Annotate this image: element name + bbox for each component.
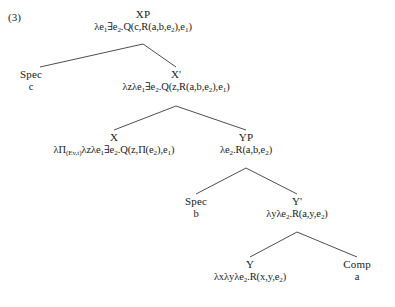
node-comp-label: Comp [343, 258, 371, 271]
node-x-bar: X' λzλe1∃e2.Q(z,R(a,b,e2),e1) [122, 68, 229, 94]
node-y-formula: λxλyλe2.R(x,y,e2) [214, 271, 286, 284]
node-x-bar-label: X' [122, 68, 229, 81]
node-spec-lower-label: Spec [185, 195, 207, 208]
node-x-formula: λΠ(Ev,t)λzλe1∃e2.Q(z,Π(e2),e1) [54, 144, 175, 157]
node-yp-formula: λe2.R(a,b,e2) [220, 144, 272, 157]
node-x-label: X [54, 131, 175, 144]
node-yp: YP λe2.R(a,b,e2) [220, 131, 272, 157]
node-spec-upper-terminal: c [20, 81, 42, 93]
syntax-tree-figure: (3) XP λe1∃e2.Q(c,R(a,b,e2),e1) Spec c X… [0, 0, 395, 307]
node-y-bar: Y' λyλe2.R(a,y,e2) [266, 195, 328, 221]
node-y: Y λxλyλe2.R(x,y,e2) [214, 258, 286, 284]
node-spec-upper: Spec c [20, 68, 42, 93]
node-yp-label: YP [220, 131, 272, 144]
node-y-bar-formula: λyλe2.R(a,y,e2) [266, 208, 328, 221]
branch-xbar-to-x [114, 106, 176, 130]
node-spec-upper-label: Spec [20, 68, 42, 81]
branch-xbar-to-yp [176, 106, 246, 130]
example-number: (3) [8, 11, 21, 23]
node-xp-label: XP [94, 8, 192, 21]
branch-xp-to-xbar [143, 44, 176, 67]
node-spec-lower: Spec b [185, 195, 207, 220]
branch-yp-to-spec [196, 168, 246, 194]
node-x: X λΠ(Ev,t)λzλe1∃e2.Q(z,Π(e2),e1) [54, 131, 175, 157]
node-x-bar-formula: λzλe1∃e2.Q(z,R(a,b,e2),e1) [122, 81, 229, 94]
node-y-bar-label: Y' [266, 195, 328, 208]
branch-xp-to-spec [40, 44, 143, 67]
node-xp: XP λe1∃e2.Q(c,R(a,b,e2),e1) [94, 8, 192, 34]
node-comp-terminal: a [343, 271, 371, 283]
node-xp-formula: λe1∃e2.Q(c,R(a,b,e2),e1) [94, 21, 192, 34]
branch-yp-to-ybar [246, 168, 297, 194]
node-y-label: Y [214, 258, 286, 271]
branch-ybar-to-comp [297, 232, 357, 257]
branch-ybar-to-y [250, 232, 297, 257]
node-comp: Comp a [343, 258, 371, 283]
node-spec-lower-terminal: b [185, 208, 207, 220]
